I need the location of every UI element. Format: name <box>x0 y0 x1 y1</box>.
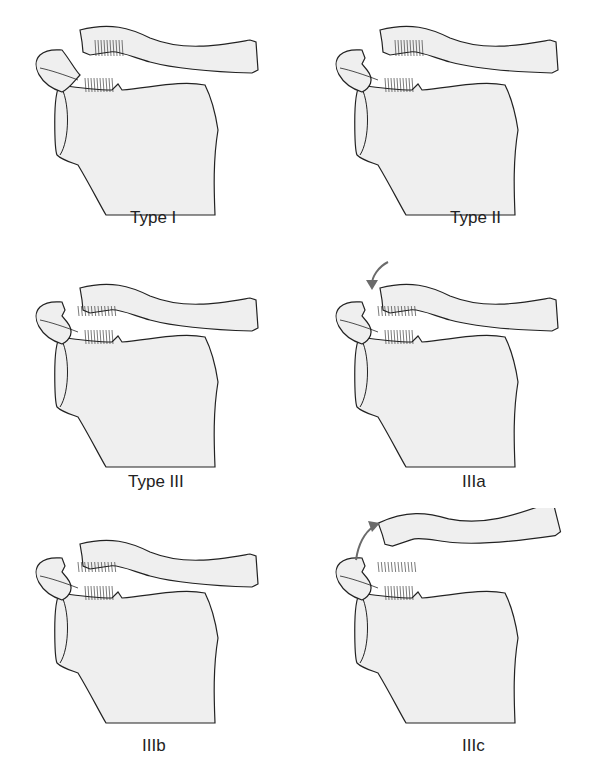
panel-label: IIIc <box>462 736 485 756</box>
panel-label: Type II <box>450 208 501 228</box>
panel-type-3a: IIIa <box>300 252 599 505</box>
panel-label: Type I <box>130 208 176 228</box>
panel-label: IIIb <box>142 736 166 756</box>
panel-type-2: Type II <box>300 0 599 253</box>
panel-type-1: Type I <box>0 0 299 253</box>
shoulder-illustration <box>300 508 599 761</box>
panel-type-3: Type III <box>0 252 299 505</box>
upward-arrow-icon <box>356 521 380 560</box>
panel-label: IIIa <box>462 472 486 492</box>
shoulder-illustration <box>0 252 299 505</box>
downward-arrow-icon <box>366 262 388 290</box>
shoulder-illustration <box>300 252 599 505</box>
shoulder-illustration <box>0 508 299 761</box>
panel-type-3c: IIIc <box>300 508 599 761</box>
panel-type-3b: IIIb <box>0 508 299 761</box>
panel-label: Type III <box>128 472 184 492</box>
